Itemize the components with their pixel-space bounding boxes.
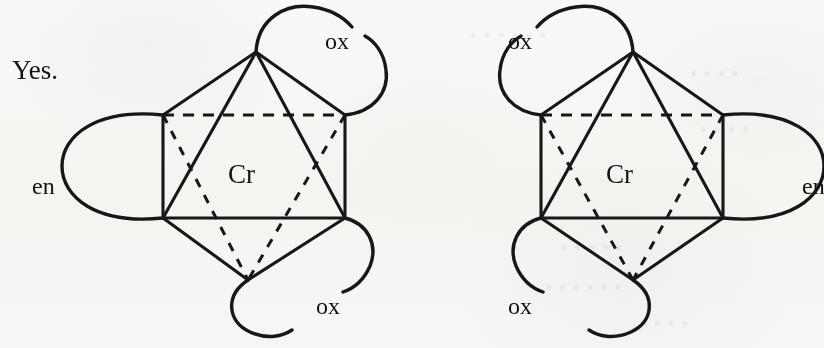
right-edge-rear-upperleft	[541, 115, 633, 280]
left-edge-top-to-lowerleft	[163, 52, 256, 218]
coordination-complex-figure	[0, 0, 824, 348]
right-edge-top-to-upperright	[633, 52, 723, 115]
diagram-page: • • • • • • • • • • • • • • • • • • • • …	[0, 0, 824, 348]
left-edge-lowerright-to-bottom	[248, 218, 345, 280]
left-edge-rear-upperright	[248, 115, 345, 280]
right-edge-top-to-upperleft	[541, 52, 633, 115]
left-edge-lowerleft-to-bottom	[163, 218, 248, 280]
right-ligand-label-en: en	[802, 174, 824, 198]
right-edge-top-to-lowerright	[633, 52, 723, 218]
right-metal-label: Cr	[606, 161, 633, 188]
right-edge-lowerleft-to-bottom	[541, 218, 633, 280]
left-structure	[62, 6, 386, 336]
right-edge-lowerright-to-bottom	[633, 218, 723, 280]
left-ligand-en-arcs	[62, 114, 163, 219]
right-structure	[500, 6, 824, 336]
left-ligand-label-ox-bottom: ox	[316, 294, 340, 318]
right-edge-top-to-lowerleft	[541, 52, 633, 218]
left-metal-label: Cr	[228, 161, 255, 188]
left-edge-top-to-upperleft	[163, 52, 256, 115]
right-ligand-label-ox-bottom: ox	[508, 294, 532, 318]
left-ligand-label-ox-top: ox	[325, 29, 349, 53]
right-ligand-label-ox-top: ox	[508, 29, 532, 53]
left-edge-top-to-upperright	[256, 52, 345, 115]
answer-text: Yes.	[12, 57, 58, 84]
right-edge-rear-upperright	[633, 115, 723, 280]
right-ligand-en-arcs	[723, 114, 824, 219]
left-ligand-label-en: en	[32, 174, 55, 198]
